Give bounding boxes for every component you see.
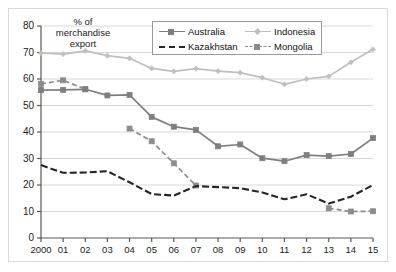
x-tick-label: 11 bbox=[274, 244, 294, 255]
y-tick-label: 20 bbox=[12, 179, 34, 190]
series-line-australia bbox=[41, 89, 373, 161]
x-tick-label: 01 bbox=[53, 244, 73, 255]
legend-swatch-mongolia-icon bbox=[245, 42, 271, 51]
data-point-australia bbox=[149, 114, 154, 119]
legend-item-indonesia[interactable]: Indonesia bbox=[245, 26, 315, 37]
y-tick-label: 70 bbox=[12, 47, 34, 58]
data-point-mongolia bbox=[149, 139, 154, 144]
legend-label: Indonesia bbox=[274, 26, 315, 37]
data-point-indonesia bbox=[171, 69, 176, 74]
data-point-mongolia bbox=[326, 206, 331, 211]
y-tick-label: 80 bbox=[12, 20, 34, 31]
data-point-indonesia bbox=[304, 76, 309, 81]
legend-swatch-australia-icon bbox=[159, 27, 185, 36]
data-point-australia bbox=[326, 154, 331, 159]
y-tick-label: 10 bbox=[12, 206, 34, 217]
data-point-indonesia bbox=[149, 66, 154, 71]
data-point-indonesia bbox=[215, 68, 220, 73]
data-point-indonesia bbox=[238, 70, 243, 75]
data-point-indonesia bbox=[282, 82, 287, 87]
data-point-australia bbox=[260, 156, 265, 161]
line-chart: % of merchandise export 0102030405060708… bbox=[0, 0, 396, 272]
data-point-mongolia bbox=[61, 78, 66, 83]
data-point-australia bbox=[61, 87, 66, 92]
data-point-australia bbox=[193, 127, 198, 132]
legend-label: Kazakhstan bbox=[188, 41, 238, 52]
x-tick-label: 05 bbox=[142, 244, 162, 255]
y-tick-label: 50 bbox=[12, 100, 34, 111]
x-tick-label: 14 bbox=[341, 244, 361, 255]
x-tick-label: 07 bbox=[186, 244, 206, 255]
data-point-australia bbox=[238, 142, 243, 147]
data-point-mongolia bbox=[371, 209, 376, 214]
data-point-mongolia bbox=[127, 126, 132, 131]
x-tick-label: 04 bbox=[120, 244, 140, 255]
y-tick-label: 30 bbox=[12, 153, 34, 164]
series-line-mongolia bbox=[130, 129, 196, 186]
x-tick-label: 08 bbox=[208, 244, 228, 255]
series-line-kazakhstan bbox=[41, 165, 373, 204]
x-tick-label: 09 bbox=[230, 244, 250, 255]
chart-legend: AustraliaIndonesiaKazakhstanMongolia bbox=[152, 21, 322, 55]
x-tick-label: 02 bbox=[75, 244, 95, 255]
data-point-australia bbox=[127, 92, 132, 97]
data-point-australia bbox=[39, 88, 44, 93]
legend-label: Australia bbox=[188, 26, 225, 37]
y-axis-label: % of merchandise export bbox=[44, 16, 122, 49]
data-point-mongolia bbox=[171, 161, 176, 166]
data-point-indonesia bbox=[38, 50, 43, 55]
x-tick-label: 15 bbox=[363, 244, 383, 255]
y-tick-label: 40 bbox=[12, 126, 34, 137]
y-axis-label-line-3: export bbox=[44, 38, 122, 49]
data-point-indonesia bbox=[193, 66, 198, 71]
data-point-indonesia bbox=[127, 56, 132, 61]
data-point-australia bbox=[304, 153, 309, 158]
x-tick-label: 06 bbox=[164, 244, 184, 255]
legend-label: Mongolia bbox=[274, 41, 313, 52]
x-tick-label: 03 bbox=[97, 244, 117, 255]
data-point-australia bbox=[348, 151, 353, 156]
data-point-australia bbox=[282, 159, 287, 164]
data-point-australia bbox=[216, 144, 221, 149]
data-point-mongolia bbox=[348, 209, 353, 214]
legend-swatch-kazakhstan-icon bbox=[159, 42, 185, 51]
x-tick-label: 13 bbox=[319, 244, 339, 255]
x-tick-label: 12 bbox=[297, 244, 317, 255]
x-tick-label: 10 bbox=[252, 244, 272, 255]
data-point-australia bbox=[371, 136, 376, 141]
y-tick-label: 60 bbox=[12, 73, 34, 84]
y-axis-label-line-1: % of bbox=[44, 16, 122, 27]
data-point-australia bbox=[83, 87, 88, 92]
data-point-australia bbox=[105, 93, 110, 98]
legend-item-kazakhstan[interactable]: Kazakhstan bbox=[159, 41, 238, 52]
data-point-australia bbox=[171, 124, 176, 129]
data-point-indonesia bbox=[105, 53, 110, 58]
y-tick-label: 0 bbox=[12, 232, 34, 243]
data-point-mongolia bbox=[39, 81, 44, 86]
y-axis-label-line-2: merchandise bbox=[44, 27, 122, 38]
legend-swatch-indonesia-icon bbox=[245, 27, 271, 36]
legend-item-australia[interactable]: Australia bbox=[159, 26, 225, 37]
legend-item-mongolia[interactable]: Mongolia bbox=[245, 41, 313, 52]
x-tick-label: 2000 bbox=[26, 244, 56, 255]
